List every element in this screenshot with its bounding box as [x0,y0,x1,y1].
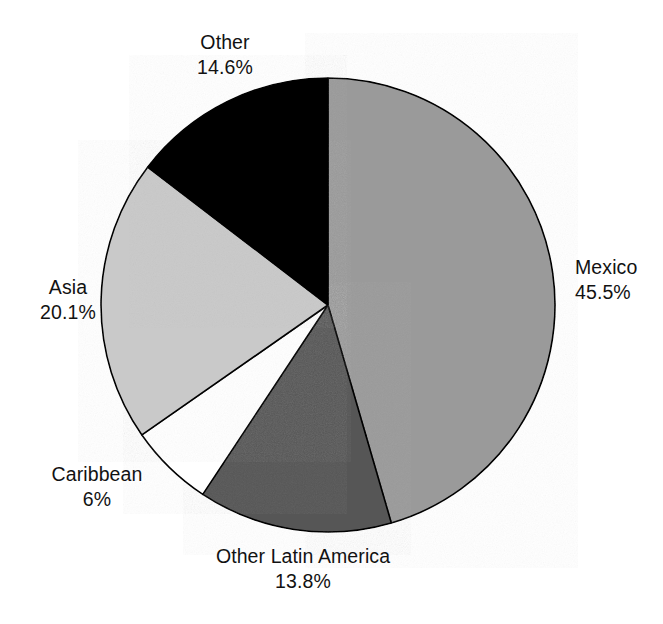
slice-label-other-latin-america: Other Latin America 13.8% [178,544,428,594]
slice-label-other: Other 14.6% [150,30,300,80]
slice-label-asia-value: 20.1% [8,300,128,325]
slice-label-other-latin-america-value: 13.8% [178,569,428,594]
pie-chart: Other 14.6% Mexico 45.5% Asia 20.1% Cari… [0,0,663,624]
slice-label-other-value: 14.6% [150,55,300,80]
slice-label-asia: Asia 20.1% [8,275,128,325]
slice-label-asia-name: Asia [8,275,128,300]
slice-label-mexico: Mexico 45.5% [575,255,663,305]
slice-label-caribbean: Caribbean 6% [22,462,172,512]
slice-label-caribbean-value: 6% [22,487,172,512]
slice-label-other-name: Other [150,30,300,55]
slice-label-mexico-value: 45.5% [575,280,663,305]
slice-label-other-latin-america-name: Other Latin America [178,544,428,569]
slice-label-mexico-name: Mexico [575,255,663,280]
slice-label-caribbean-name: Caribbean [22,462,172,487]
